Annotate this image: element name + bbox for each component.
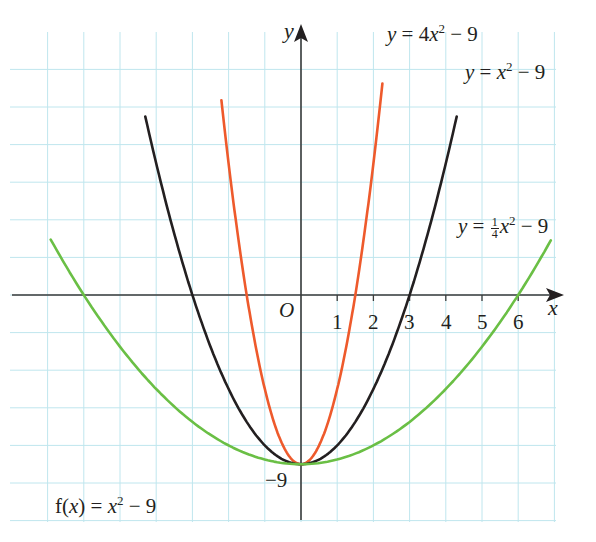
x-tick-label-4: 4	[441, 312, 452, 333]
x-axis-label: x	[548, 297, 558, 319]
fraction-one-quarter: 14	[491, 217, 499, 240]
y-tick-label-minus9: −9	[265, 470, 287, 491]
x-tick-label-3: 3	[404, 312, 415, 333]
x-tick-label-2: 2	[368, 312, 379, 333]
label-y-x2-minus-9: y = x2 − 9	[465, 60, 545, 83]
curve-y-4x2-minus-9	[221, 84, 382, 465]
x-ticks	[337, 295, 518, 301]
function-definition-label: f(x) = x2 − 9	[55, 494, 156, 517]
x-tick-label-5: 5	[477, 312, 488, 333]
x-tick-label-1: 1	[332, 312, 343, 333]
label-y-quarter-x2-minus-9: y = 14x2 − 9	[458, 214, 548, 240]
grid-lines	[10, 32, 556, 522]
y-axis-label: y	[284, 20, 294, 42]
label-y-4x2-minus-9: y = 4x2 − 9	[387, 22, 478, 45]
origin-label: O	[279, 300, 294, 321]
x-tick-label-6: 6	[513, 312, 524, 333]
